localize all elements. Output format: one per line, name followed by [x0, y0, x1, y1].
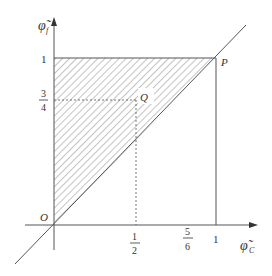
y-tick-3-4-den: 4 [41, 102, 46, 113]
x-tick-1-2-den: 2 [132, 245, 137, 256]
diagram-canvas: φ̃ f φ̃ C 1 3 4 1 2 5 6 1 O P Q [0, 0, 272, 276]
x-tick-1-2-num: 1 [132, 231, 137, 242]
y-axis-label: φ̃ [38, 18, 52, 33]
x-tick-1: 1 [213, 233, 219, 245]
y-tick-1: 1 [41, 53, 47, 65]
x-tick-5-6-den: 6 [185, 241, 190, 252]
point-p-label: P [220, 56, 228, 68]
x-axis-arrow-icon [249, 222, 258, 228]
x-axis-subscript: C [249, 246, 255, 255]
origin-label: O [40, 211, 48, 223]
x-tick-5-6-num: 5 [185, 226, 190, 237]
y-tick-3-4-num: 3 [41, 88, 46, 99]
hatched-region [54, 58, 216, 225]
point-q-label: Q [140, 91, 148, 103]
y-axis-subscript: f [46, 26, 50, 35]
y-axis-arrow-icon [51, 17, 57, 26]
